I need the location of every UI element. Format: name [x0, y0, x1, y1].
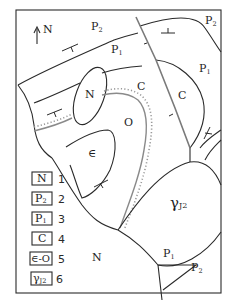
label-p2-right: P2: [205, 14, 217, 28]
legend-item: γJ2 6: [31, 272, 63, 286]
legend-item: P1 3: [32, 212, 65, 226]
label-o: O: [124, 116, 133, 129]
north-arrow-icon: [34, 27, 40, 44]
boundary-p1-c-center: [102, 66, 142, 73]
geological-map: N P2 P1 P2 P1 N C C O ∈: [0, 0, 232, 305]
label-p1-right: P1: [199, 62, 211, 76]
label-p2-bottom: P2: [191, 261, 203, 275]
cambrian-lens: [66, 130, 115, 198]
boundary-c-o-left: [34, 118, 72, 131]
label-cambrian: ∈: [88, 147, 96, 160]
label-p1-bottom: P1: [163, 247, 175, 261]
svg-text:4: 4: [58, 233, 65, 246]
label-n-lower: N: [92, 251, 102, 264]
boundary-p1-c-right: [156, 60, 204, 148]
boundary-p1-c-left: [34, 83, 80, 103]
svg-text:6: 6: [56, 273, 63, 286]
svg-text:5: 5: [58, 253, 65, 266]
legend-item: P2 2: [32, 192, 65, 206]
svg-text:3: 3: [58, 213, 65, 226]
boundary-c-o-arc: [102, 93, 146, 228]
legend-item: C 4: [32, 232, 65, 246]
legend-item: N 1: [32, 172, 65, 186]
svg-text:1: 1: [58, 173, 65, 186]
svg-text:C: C: [38, 232, 46, 245]
label-c-center: C: [137, 80, 145, 93]
boundary-p2-p1-top: [18, 33, 138, 85]
label-p1-top: P1: [111, 43, 123, 57]
label-p2-top: P2: [91, 20, 103, 34]
svg-text:N: N: [37, 172, 47, 185]
label-granite: γJ2: [170, 194, 187, 212]
strike-dip-icons: [47, 28, 212, 188]
svg-text:2: 2: [58, 193, 65, 206]
north-label: N: [43, 23, 53, 36]
legend-item: ∈-O 5: [30, 252, 65, 266]
label-c-right: C: [178, 89, 186, 102]
svg-text:∈-O: ∈-O: [31, 253, 50, 264]
label-n-upper: N: [85, 88, 95, 101]
boundary-left-edge: [18, 85, 52, 158]
legend: N 1 P2 2 P1 3 C 4 ∈-O 5 γJ2 6: [30, 172, 65, 286]
